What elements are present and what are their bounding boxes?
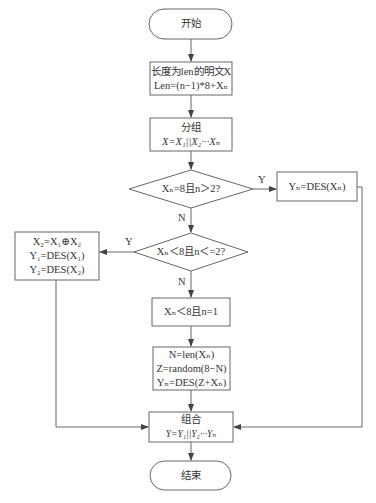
group-line-2: X=X₁||X₂···Xₙ <box>162 135 220 149</box>
input-line-1: 长度为len的明文X <box>151 65 231 79</box>
end-terminal: 结束 <box>150 461 231 490</box>
pad-line-3: Yₙ=DES(Z+Xₙ) <box>157 376 226 390</box>
pad-box: N=len(Xₙ) Z=random(8−N) Yₙ=DES(Z+Xₙ) <box>153 347 230 390</box>
end-label: 结束 <box>181 469 201 483</box>
start-terminal: 开始 <box>149 9 232 39</box>
combine-box: 组合 Y=Y₁||Y₂···Yₙ <box>149 412 233 442</box>
group-box: 分组 X=X₁||X₂···Xₙ <box>150 118 232 151</box>
decision-2-no-label: N <box>178 276 186 287</box>
decision-short-block: Xₙ＜8且n＜=2? <box>142 243 240 261</box>
xor-box: X₂=X₁⊕X₂ Y₁=DES(X₁) Y₂=DES(X₂) <box>15 232 99 280</box>
xor-line-2: Y₁=DES(X₁) <box>29 249 84 263</box>
xor-line-1: X₂=X₁⊕X₂ <box>33 235 81 249</box>
xor-line-3: Y₂=DES(X₂) <box>29 263 84 277</box>
input-box: 长度为len的明文X Len=(n−1)*8+Xₙ <box>150 62 232 95</box>
short-block-label: Xₙ＜8且n=1 <box>164 305 218 319</box>
decision-2-yes-label: Y <box>125 236 133 247</box>
combine-line-1: 组合 <box>181 413 201 427</box>
decision-1-no-label: N <box>178 212 186 223</box>
combine-line-2: Y=Y₁||Y₂···Yₙ <box>166 427 216 441</box>
input-line-2: Len=(n−1)*8+Xₙ <box>154 79 228 93</box>
encrypt-full-box: Yₙ=DES(Xₙ) <box>277 172 357 201</box>
short-block-box: Xₙ＜8且n=1 <box>152 298 230 326</box>
decision-1-label: Xₙ=8且n＞2? <box>162 182 220 196</box>
decision-1-yes-label: Y <box>258 174 266 185</box>
start-label: 开始 <box>181 17 201 31</box>
pad-line-2: Z=random(8−N) <box>156 362 226 376</box>
pad-line-1: N=len(Xₙ) <box>169 348 214 362</box>
decision-full-block: Xₙ=8且n＞2? <box>140 180 242 198</box>
decision-2-label: Xₙ＜8且n＜=2? <box>157 245 225 259</box>
encrypt-full-label: Yₙ=DES(Xₙ) <box>288 180 345 194</box>
group-line-1: 分组 <box>181 121 201 135</box>
